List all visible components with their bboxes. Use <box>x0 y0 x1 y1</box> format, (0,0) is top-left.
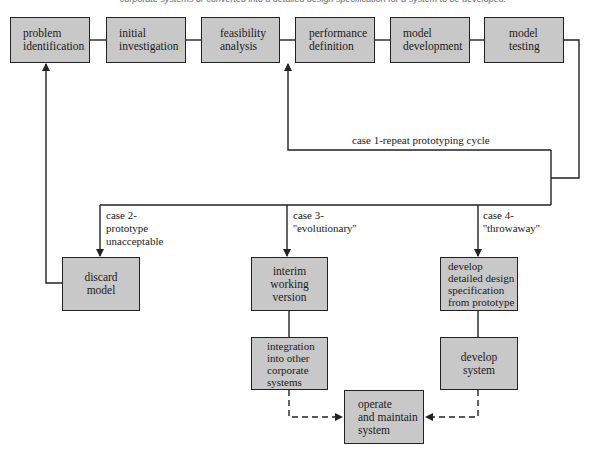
box-text: performance <box>309 27 374 40</box>
box-text: operate <box>358 398 423 411</box>
box-text: specification <box>448 284 517 296</box>
box-model-testing: model testing <box>484 17 564 63</box>
box-text: development <box>403 40 469 53</box>
box-text: integration <box>267 340 327 352</box>
box-performance-definition: performance definition <box>295 17 375 63</box>
label-line: unacceptable <box>106 235 163 248</box>
box-develop-system: develop system <box>440 337 518 390</box>
box-text: feasibility <box>220 27 279 40</box>
label-line: ''throwaway'' <box>483 222 540 235</box>
box-text: detailed design <box>448 272 517 284</box>
box-feasibility-analysis: feasibility analysis <box>201 17 280 63</box>
label-line: prototype <box>106 222 163 235</box>
box-text: initial <box>119 27 185 40</box>
box-text: working <box>270 278 308 291</box>
case-3-label: case 3- ''evolutionary'' <box>293 209 357 235</box>
box-text: model <box>403 27 469 40</box>
box-interim-working-version: interim working version <box>251 257 328 311</box>
label-line: case 4- <box>483 209 540 222</box>
box-text: analysis <box>220 40 279 53</box>
label-line: case 3- <box>293 209 357 222</box>
box-discard-model: discard model <box>62 257 140 311</box>
box-text: definition <box>309 40 374 53</box>
box-text: problem <box>23 27 89 40</box>
box-text: develop <box>448 260 517 272</box>
loop-label-case-1: case 1-repeat prototyping cycle <box>352 134 490 147</box>
box-text: system <box>463 364 495 377</box>
label-line: ''evolutionary'' <box>293 222 357 235</box>
box-text: system <box>358 424 423 437</box>
box-text: from prototype <box>448 296 517 308</box>
label-line: case 2- <box>106 209 163 222</box>
box-text: interim <box>273 265 306 278</box>
box-text: discard <box>84 271 117 284</box>
box-integration-into-other-corporate-systems: integration into other corporate systems <box>251 337 328 390</box>
box-text: testing <box>509 40 563 53</box>
box-text: model <box>509 27 563 40</box>
case-4-label: case 4- ''throwaway'' <box>483 209 540 235</box>
box-text: identification <box>23 40 89 53</box>
box-text: systems <box>267 376 327 388</box>
box-initial-investigation: initial investigation <box>106 17 186 63</box>
box-text: model <box>87 284 116 297</box>
box-text: develop <box>461 351 497 364</box>
box-problem-identification: problem identification <box>10 17 90 63</box>
case-2-label: case 2- prototype unacceptable <box>106 209 163 248</box>
box-operate-and-maintain-system: operate and maintain system <box>344 390 424 444</box>
box-text: into other <box>267 352 327 364</box>
box-text: version <box>273 291 307 304</box>
box-text: investigation <box>119 40 185 53</box>
box-develop-detailed-design-specification: develop detailed design specification fr… <box>440 257 518 311</box>
box-text: corporate <box>267 364 327 376</box>
box-text: and maintain <box>358 411 423 424</box>
box-model-development: model development <box>390 17 470 63</box>
